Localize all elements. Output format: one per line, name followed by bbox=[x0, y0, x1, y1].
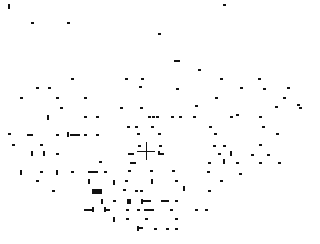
point-mark bbox=[150, 170, 153, 172]
point-mark bbox=[158, 133, 161, 135]
point-mark bbox=[166, 228, 169, 230]
point-mark bbox=[213, 145, 216, 147]
point-mark bbox=[101, 199, 103, 204]
point-mark bbox=[12, 144, 15, 146]
point-mark bbox=[275, 106, 278, 108]
point-mark bbox=[70, 134, 80, 136]
point-mark bbox=[139, 86, 142, 88]
point-mark bbox=[151, 126, 154, 128]
point-mark bbox=[144, 209, 154, 211]
point-mark bbox=[267, 154, 270, 156]
point-mark bbox=[156, 116, 159, 118]
point-mark bbox=[140, 190, 143, 192]
point-mark bbox=[125, 180, 128, 182]
point-mark bbox=[278, 162, 281, 164]
point-mark bbox=[215, 97, 218, 99]
point-field-canvas[interactable] bbox=[0, 0, 320, 244]
point-mark bbox=[113, 180, 115, 185]
point-mark bbox=[283, 97, 286, 99]
point-mark bbox=[209, 126, 212, 128]
point-mark bbox=[179, 116, 182, 118]
point-mark bbox=[172, 170, 175, 172]
crosshair-cursor-icon bbox=[146, 142, 147, 160]
point-mark bbox=[276, 133, 279, 135]
point-mark bbox=[160, 153, 164, 155]
point-mark bbox=[141, 78, 144, 80]
point-mark bbox=[152, 116, 155, 118]
point-mark bbox=[135, 190, 138, 192]
point-mark bbox=[143, 200, 151, 202]
point-mark bbox=[128, 153, 134, 155]
point-mark bbox=[287, 87, 290, 89]
point-mark bbox=[67, 22, 70, 24]
point-mark bbox=[240, 87, 243, 89]
point-mark bbox=[96, 134, 99, 136]
point-mark bbox=[96, 116, 99, 118]
point-mark bbox=[259, 144, 262, 146]
point-mark bbox=[48, 87, 51, 89]
point-mark bbox=[223, 4, 226, 6]
point-mark bbox=[208, 162, 211, 164]
point-mark bbox=[154, 228, 157, 230]
point-mark bbox=[40, 171, 43, 173]
point-mark bbox=[193, 116, 196, 118]
point-mark bbox=[67, 132, 69, 137]
point-mark bbox=[128, 170, 131, 172]
point-mark bbox=[126, 218, 129, 220]
point-mark bbox=[236, 162, 239, 164]
point-mark bbox=[205, 209, 208, 211]
point-mark bbox=[208, 190, 211, 192]
point-mark bbox=[258, 78, 261, 80]
point-mark bbox=[236, 114, 239, 116]
point-mark bbox=[135, 126, 138, 128]
point-mark bbox=[174, 60, 180, 62]
point-mark bbox=[20, 170, 22, 175]
point-mark bbox=[259, 116, 262, 118]
point-mark bbox=[123, 189, 126, 191]
point-mark bbox=[88, 179, 90, 184]
point-mark bbox=[88, 171, 98, 173]
point-mark bbox=[198, 69, 201, 71]
point-mark bbox=[31, 22, 34, 24]
point-mark bbox=[137, 133, 140, 135]
point-mark bbox=[113, 200, 116, 202]
point-mark bbox=[52, 190, 55, 192]
point-mark bbox=[259, 162, 262, 164]
point-mark bbox=[223, 159, 225, 164]
point-mark bbox=[106, 209, 110, 211]
point-mark bbox=[27, 134, 33, 136]
point-mark bbox=[170, 209, 173, 211]
point-mark bbox=[299, 107, 302, 109]
point-mark bbox=[36, 87, 39, 89]
point-mark bbox=[230, 116, 233, 118]
point-mark bbox=[125, 78, 128, 80]
point-mark bbox=[175, 218, 178, 220]
point-mark bbox=[8, 133, 11, 135]
point-mark bbox=[183, 186, 185, 191]
point-mark bbox=[140, 107, 143, 109]
point-mark bbox=[220, 180, 223, 182]
point-mark bbox=[60, 107, 63, 109]
point-mark bbox=[126, 209, 129, 211]
point-mark bbox=[56, 153, 59, 155]
point-mark bbox=[262, 126, 265, 128]
point-mark bbox=[175, 200, 178, 202]
point-mark bbox=[230, 151, 232, 156]
point-mark bbox=[207, 171, 210, 173]
point-mark bbox=[71, 171, 74, 173]
point-mark bbox=[20, 97, 23, 99]
point-mark bbox=[239, 173, 242, 175]
point-mark bbox=[84, 209, 92, 211]
point-mark bbox=[36, 180, 39, 182]
point-mark bbox=[151, 179, 153, 184]
point-mark bbox=[43, 151, 45, 156]
point-mark bbox=[40, 144, 43, 146]
point-mark bbox=[84, 134, 87, 136]
point-mark bbox=[263, 88, 266, 90]
point-mark bbox=[176, 88, 179, 90]
point-mark bbox=[84, 116, 87, 118]
point-mark bbox=[56, 170, 58, 175]
point-mark bbox=[158, 33, 161, 35]
point-mark bbox=[130, 162, 136, 164]
point-mark bbox=[161, 200, 169, 202]
